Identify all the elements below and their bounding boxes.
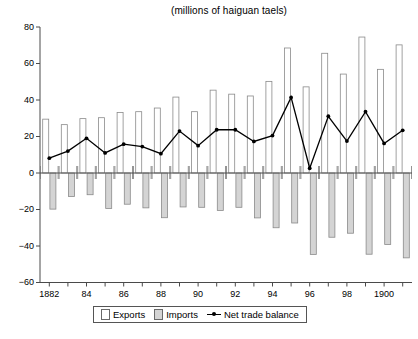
import-bar <box>199 173 205 207</box>
chart-svg: −60−40−20020406080 188284868890929496981… <box>0 0 418 300</box>
legend-item-exports: Exports <box>101 309 145 320</box>
import-bar <box>162 173 168 218</box>
net-balance-point <box>140 145 144 149</box>
export-bars <box>43 37 402 173</box>
export-bar <box>247 96 253 173</box>
net-balance-point <box>122 142 126 146</box>
export-bar <box>154 108 160 173</box>
y-tick-label: −40 <box>19 241 34 251</box>
y-tick-label: −60 <box>19 277 34 287</box>
import-bar <box>255 173 261 218</box>
x-tick-label: 96 <box>305 289 315 299</box>
legend-label-exports: Exports <box>113 310 145 320</box>
net-balance-point <box>401 128 405 132</box>
y-tick-label: 60 <box>24 58 34 68</box>
net-balance-point <box>47 156 51 160</box>
import-bar <box>50 173 56 209</box>
legend-label-imports: Imports <box>166 310 198 320</box>
import-bar <box>310 173 316 254</box>
legend-label-net-trade-balance: Net trade balance <box>224 310 299 320</box>
net-balance-point <box>215 128 219 132</box>
import-bar <box>348 173 354 233</box>
imports-swatch-icon <box>154 309 163 320</box>
export-bar <box>229 94 235 173</box>
import-bar <box>180 173 186 207</box>
x-tick-label: 88 <box>156 289 166 299</box>
net-balance-point <box>289 96 293 100</box>
import-bar <box>292 173 298 223</box>
import-bar <box>366 173 372 254</box>
net-balance-point <box>103 151 107 155</box>
import-bar <box>217 173 223 210</box>
export-bar <box>136 112 142 173</box>
x-tick-label: 1882 <box>39 289 59 299</box>
y-tick-label: −20 <box>19 204 34 214</box>
net-balance-point <box>85 136 89 140</box>
net-balance-point <box>382 142 386 146</box>
net-balance-point <box>308 166 312 170</box>
x-tick-label: 98 <box>342 289 352 299</box>
import-bar <box>273 173 279 228</box>
export-bar <box>43 119 49 173</box>
y-tick-label: 80 <box>24 22 34 32</box>
x-tick-label: 86 <box>119 289 129 299</box>
import-bar <box>403 173 409 258</box>
import-bars <box>50 173 409 258</box>
net-balance-point <box>326 114 330 118</box>
net-balance-point <box>196 144 200 148</box>
net-balance-point <box>178 129 182 133</box>
import-bar <box>236 173 242 207</box>
x-tick-label: 90 <box>193 289 203 299</box>
net-balance-point <box>66 149 70 153</box>
net-balance-point <box>364 110 368 114</box>
exports-swatch-icon <box>101 309 110 320</box>
y-axis: −60−40−20020406080 <box>19 22 40 288</box>
export-bar <box>378 69 384 173</box>
x-axis: 188284868890929496981900 <box>39 283 412 299</box>
net-balance-point <box>159 152 163 156</box>
export-bar <box>340 74 346 173</box>
export-bar <box>61 125 67 173</box>
export-bar <box>322 53 328 173</box>
y-tick-label: 40 <box>24 95 34 105</box>
import-bar <box>143 173 149 208</box>
x-tick-label: 92 <box>230 289 240 299</box>
export-bar <box>359 37 365 173</box>
export-bar <box>396 45 402 173</box>
net-balance-point <box>271 134 275 138</box>
import-bar <box>87 173 93 195</box>
export-bar <box>266 81 272 173</box>
legend-item-net-trade-balance: Net trade balance <box>207 310 299 320</box>
import-bar <box>69 173 75 197</box>
net-balance-point <box>345 139 349 143</box>
net-balance-line-marker-icon <box>207 310 221 319</box>
x-tick-label: 94 <box>267 289 277 299</box>
export-bar <box>99 118 105 173</box>
legend-item-imports: Imports <box>154 309 198 320</box>
y-tick-label: 0 <box>29 168 34 178</box>
import-bar <box>124 173 130 204</box>
x-tick-label: 1900 <box>374 289 394 299</box>
chart-legend: Exports Imports Net trade balance <box>93 306 307 323</box>
chart-figure: (millions of haiguan taels) −60−40−20020… <box>0 0 418 339</box>
y-tick-label: 20 <box>24 131 34 141</box>
export-bar <box>117 112 123 173</box>
plot-area: −60−40−20020406080 188284868890929496981… <box>0 0 418 300</box>
net-balance-point <box>233 128 237 132</box>
import-bar <box>385 173 391 245</box>
net-balance-point <box>252 140 256 144</box>
import-bar <box>106 173 112 208</box>
export-bar <box>80 119 86 173</box>
import-bar <box>329 173 335 237</box>
x-tick-label: 84 <box>81 289 91 299</box>
